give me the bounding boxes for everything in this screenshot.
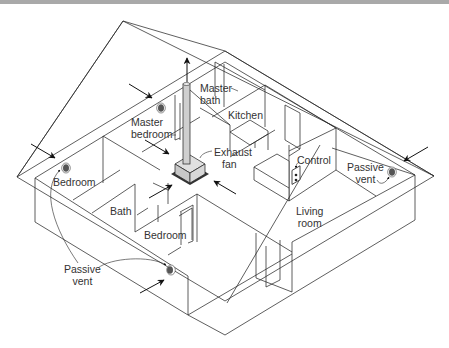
label-line: fan (214, 159, 252, 171)
label-line: vent (64, 276, 101, 288)
label-line: room (296, 218, 323, 230)
vent-icon (388, 167, 397, 177)
label-bedroom-left: Bedroom (53, 177, 96, 189)
label-exhaust-fan: Exhaust fan (214, 147, 252, 170)
airflow-arrow-icon (140, 280, 164, 293)
label-kitchen: Kitchen (228, 110, 263, 122)
label-control: Control (297, 155, 331, 167)
label-bedroom-bottom: Bedroom (144, 230, 187, 242)
label-line: bedroom (131, 129, 172, 141)
label-master-bath: Master bath (200, 83, 232, 106)
airflow-arrow-icon (145, 140, 169, 154)
passive-vents (62, 103, 397, 275)
airflow-arrow-icon (404, 147, 428, 161)
label-line: Passive (347, 162, 384, 174)
label-master-bedroom: Master bedroom (131, 117, 172, 140)
airflow-arrow-icon (149, 185, 172, 198)
label-living-room: Living room (296, 206, 323, 229)
label-passive-vent-right: Passive vent (347, 162, 384, 185)
vent-icon (157, 103, 166, 113)
label-line: Passive (64, 264, 101, 276)
vent-icon (62, 163, 71, 173)
leader-lines (51, 88, 389, 268)
label-passive-vent-left: Passive vent (64, 264, 101, 287)
label-bath: Bath (110, 206, 132, 218)
label-line: bath (200, 95, 232, 107)
label-line: Master (200, 83, 232, 95)
airflow-arrow-icon (129, 84, 152, 98)
label-line: Master (131, 117, 172, 129)
label-line: vent (347, 174, 384, 186)
label-line: Living (296, 206, 323, 218)
label-line: Exhaust (214, 147, 252, 159)
airflow-arrow-icon (214, 181, 236, 194)
vent-icon (167, 265, 176, 275)
